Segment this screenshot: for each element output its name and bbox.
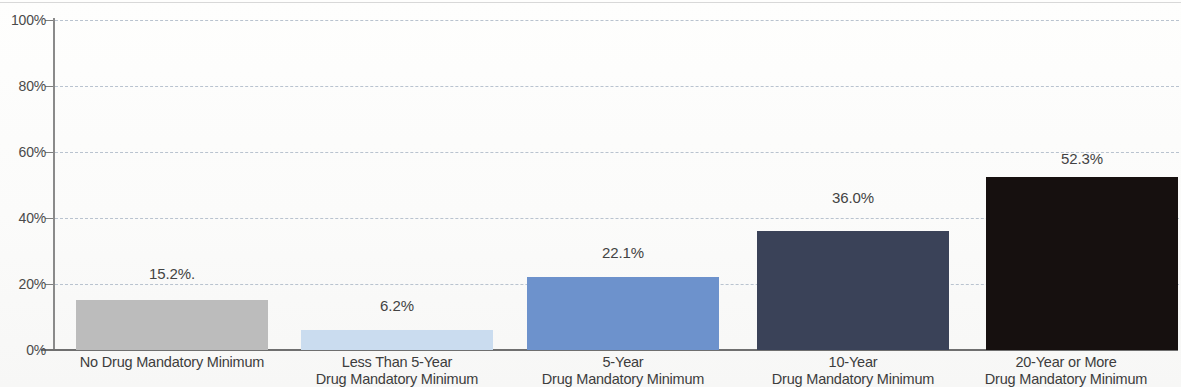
y-axis-line — [53, 18, 55, 350]
bar-20-year-or-more[interactable] — [986, 177, 1178, 350]
gridline-80 — [55, 86, 1179, 87]
bar-5-year[interactable] — [527, 277, 719, 350]
bar-value-label-2: 6.2% — [301, 297, 493, 314]
xtick-label-line1: Less Than 5-Year — [342, 354, 452, 370]
xtick-label-line2: Drug Mandatory Minimum — [737, 371, 969, 387]
bar-value-label-5: 52.3% — [986, 150, 1178, 167]
xtick-label-line1: 5-Year — [603, 354, 644, 370]
bar-10-year[interactable] — [757, 231, 949, 350]
ytick-label-20: 20% — [2, 276, 46, 292]
xtick-label-line1: 10-Year — [829, 354, 878, 370]
xtick-label-5-year: 5-Year Drug Mandatory Minimum — [507, 354, 739, 387]
top-border-rule — [0, 2, 1181, 3]
ytick-label-100: 100% — [2, 12, 46, 28]
bar-value-label-4: 36.0% — [757, 189, 949, 206]
gridline-100 — [55, 20, 1179, 21]
xtick-label-line2: Drug Mandatory Minimum — [281, 371, 513, 387]
bar-value-label-1: 15.2%. — [76, 265, 268, 282]
xtick-label-20-year-or-more: 20-Year or More Drug Mandatory Minimum — [950, 354, 1181, 387]
bar-chart: 100% 80% 60% 40% 20% 0% 15.2%. 6.2% 22.1… — [0, 0, 1181, 387]
bar-less-than-5-year[interactable] — [301, 330, 493, 350]
ytick-label-40: 40% — [2, 210, 46, 226]
xtick-label-line1: 20-Year or More — [1015, 354, 1116, 370]
xtick-label-less-than-5-year: Less Than 5-Year Drug Mandatory Minimum — [281, 354, 513, 387]
xtick-label-line2: Drug Mandatory Minimum — [507, 371, 739, 387]
bar-no-drug-mandatory-minimum[interactable] — [76, 300, 268, 350]
ytick-label-0: 0% — [2, 342, 46, 358]
xtick-label-10-year: 10-Year Drug Mandatory Minimum — [737, 354, 969, 387]
ytick-label-80: 80% — [2, 78, 46, 94]
xtick-label-line1: No Drug Mandatory Minimum — [80, 354, 264, 370]
bar-value-label-3: 22.1% — [527, 244, 719, 261]
xtick-label-line2: Drug Mandatory Minimum — [950, 371, 1181, 387]
xtick-label-no-drug-mandatory-minimum: No Drug Mandatory Minimum — [56, 354, 288, 371]
ytick-label-60: 60% — [2, 144, 46, 160]
